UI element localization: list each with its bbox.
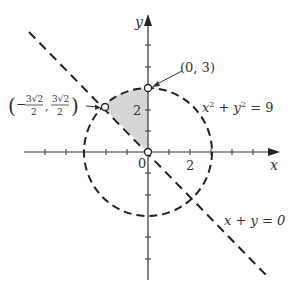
y-axis-label: y [134, 14, 144, 30]
x-axis-label: x [270, 157, 278, 173]
svg-text:(: ( [8, 94, 16, 118]
svg-text:−: − [16, 97, 26, 111]
origin-label: 0 [138, 156, 146, 171]
svg-text:,: , [45, 100, 49, 113]
svg-text:2: 2 [57, 107, 63, 117]
point-origin [145, 149, 152, 156]
svg-text:3√2: 3√2 [26, 94, 43, 104]
x-tick-label-2: 2 [186, 158, 194, 173]
pointer-arrow-0-3 [152, 71, 182, 87]
svg-text:2: 2 [31, 107, 37, 117]
svg-text:): ) [71, 94, 79, 118]
circle-equation-label: x2 + y2 = 9 [202, 100, 273, 115]
coordinate-diagram: y x 0 2 2 (0, 3) x2 + y2 = 9 x + y = 0 (… [0, 0, 293, 288]
x-axis-arrow-icon [268, 148, 280, 156]
arrowhead-icon [152, 81, 160, 87]
point-label-intersection: ( − 3√2 2 , 3√2 2 ) [8, 94, 79, 118]
point-intersection [102, 104, 109, 111]
point-label-0-3: (0, 3) [180, 60, 215, 75]
pointer-arrow-intersection [86, 105, 101, 111]
shaded-region [103, 88, 148, 152]
line-equation-label: x + y = 0 [224, 213, 285, 228]
y-tick-label-2: 2 [133, 103, 141, 118]
point-0-3 [145, 85, 152, 92]
y-axis-arrow-icon [144, 14, 152, 26]
svg-text:3√2: 3√2 [52, 94, 69, 104]
